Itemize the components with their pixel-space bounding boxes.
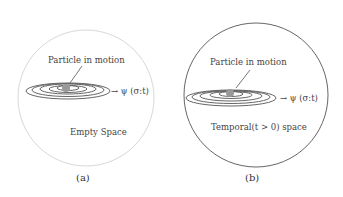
space-label-b: Temporal(t > 0) space — [211, 122, 307, 132]
wave-label-b: → ψ (σ:t) — [280, 93, 318, 103]
pointer-arrow — [236, 70, 250, 88]
pointer-arrow — [70, 66, 82, 83]
particle-icon — [62, 84, 70, 92]
caption-a: (a) — [76, 172, 90, 183]
particle-label-b: Particle in motion — [210, 57, 287, 67]
space-label-a: Empty Space — [70, 127, 127, 137]
caption-b: (b) — [245, 172, 259, 183]
particle-icon — [226, 89, 234, 97]
wave-label-a: → ψ (σ:t) — [111, 86, 149, 96]
panel-a-graphic — [18, 30, 154, 166]
particle-label-a: Particle in motion — [48, 55, 125, 65]
